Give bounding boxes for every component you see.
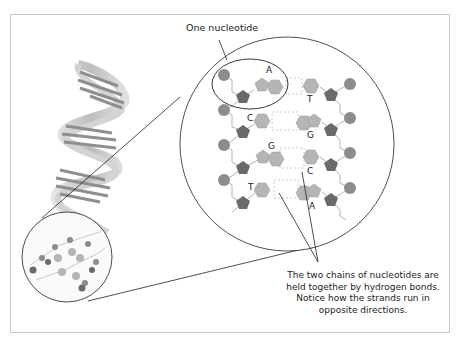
base-label-left-2: C xyxy=(247,113,253,123)
caption-line: Notice how the strands run in xyxy=(268,293,458,305)
small-magnify-circle xyxy=(22,212,112,302)
base-label-right-2: G xyxy=(307,130,314,140)
dna-helix-icon xyxy=(55,64,125,232)
base-label-left-3: G xyxy=(268,141,275,151)
label-leader-line xyxy=(219,40,227,60)
base-label-right-3: C xyxy=(307,166,313,176)
caption-line: held together by hydrogen bonds. xyxy=(268,282,458,294)
base-label-left-4: T xyxy=(248,182,254,192)
caption-line: The two chains of nucleotides are xyxy=(268,270,458,282)
large-magnify-circle xyxy=(180,37,394,251)
caption-line: opposite directions. xyxy=(268,305,458,317)
base-label-left-1: A xyxy=(266,65,272,75)
one-nucleotide-label: One nucleotide xyxy=(186,22,258,33)
base-label-right-1: T xyxy=(307,94,313,104)
caption: The two chains of nucleotides are held t… xyxy=(268,270,458,316)
base-label-right-4: A xyxy=(309,201,315,211)
